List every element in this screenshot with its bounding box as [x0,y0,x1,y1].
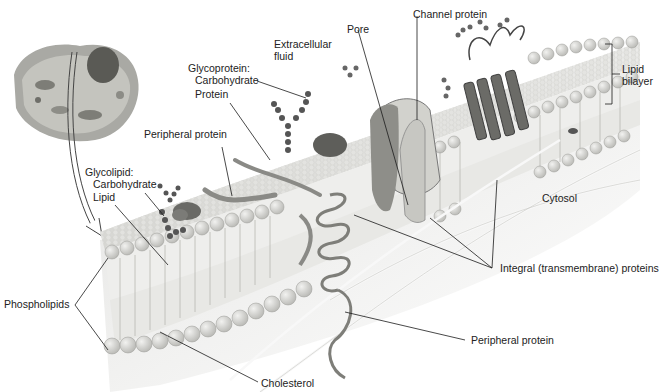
label-line: Extracellular [274,38,332,50]
label-extracellular-fluid: Extracellular fluid [274,38,332,62]
label-line: fluid [274,50,332,62]
label-glycolipid-lipid: Lipid [93,191,115,203]
label-phospholipids: Phospholipids [4,298,69,310]
label-channel-protein: Channel protein [413,8,487,20]
label-cholesterol: Cholesterol [261,377,314,389]
label-peripheral-protein-top: Peripheral protein [144,128,227,140]
label-pore: Pore [347,23,369,35]
label-line: bilayer [622,75,653,87]
label-glycolipid-carbohydrate: Carbohydrate [93,178,157,190]
label-peripheral-protein-bottom: Peripheral protein [471,334,554,346]
label-glycolipid: Glycolipid: [85,166,133,178]
label-integral-proteins: Integral (transmembrane) proteins [500,262,659,274]
label-glycoprotein-carbohydrate: Carbohydrate [195,74,259,86]
label-cytosol: Cytosol [542,192,577,204]
label-glycoprotein-protein: Protein [195,88,228,100]
label-line: Lipid [622,63,653,75]
label-lipid-bilayer: Lipid bilayer [622,63,653,87]
label-glycoprotein: Glycoprotein: [188,62,250,74]
